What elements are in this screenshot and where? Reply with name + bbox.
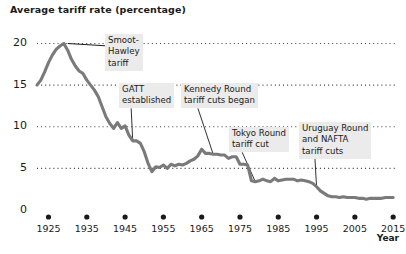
leader-line-kennedy-round — [198, 108, 213, 154]
leader-line-uruguay-nafta — [315, 159, 317, 187]
x-tick-label-1985: 1985 — [260, 223, 296, 234]
y-tick-label-10: 10 — [5, 119, 27, 132]
x-tick-label-1955: 1955 — [145, 223, 181, 234]
x-tick-label-2005: 2005 — [337, 223, 373, 234]
x-tick-label-1925: 1925 — [30, 223, 66, 234]
leader-line-gatt — [131, 108, 133, 141]
x-tick-label-1935: 1935 — [69, 223, 105, 234]
x-tick-dot-1945 — [122, 214, 127, 219]
x-tick-label-1995: 1995 — [299, 223, 335, 234]
y-tick-label-5: 5 — [5, 161, 27, 174]
annotation-tokyo-round: Tokyo Round tariff cut — [229, 127, 289, 152]
annotation-uruguay-nafta: Uruguay Round and NAFTA tariff cuts — [299, 122, 371, 159]
x-axis-title: Year — [377, 233, 399, 243]
annotation-smoot-hawley: Smoot- Hawley tariff — [105, 34, 143, 71]
x-tick-dot-1955 — [161, 214, 166, 219]
y-tick-label-15: 15 — [5, 78, 27, 91]
x-tick-label-1975: 1975 — [222, 223, 258, 234]
x-tick-dot-1985 — [276, 214, 281, 219]
x-tick-dot-1925 — [46, 214, 51, 219]
x-tick-label-1965: 1965 — [184, 223, 220, 234]
y-tick-label-20: 20 — [5, 36, 27, 49]
x-tick-dot-1965 — [199, 214, 204, 219]
x-axis-tick-dots — [46, 214, 396, 219]
x-tick-dot-1935 — [84, 214, 89, 219]
x-tick-dot-1995 — [314, 214, 319, 219]
y-tick-label-0: 0 — [5, 203, 27, 216]
annotation-gatt: GATT established — [119, 83, 174, 108]
x-tick-dot-2015 — [391, 214, 396, 219]
x-tick-label-1945: 1945 — [107, 223, 143, 234]
tariff-rate-chart-figure: Average tariff rate (percentage) 0510152… — [0, 0, 406, 254]
x-tick-dot-1975 — [237, 214, 242, 219]
annotation-kennedy-round: Kennedy Round tariff cuts began — [181, 83, 258, 108]
x-tick-dot-2005 — [352, 214, 357, 219]
